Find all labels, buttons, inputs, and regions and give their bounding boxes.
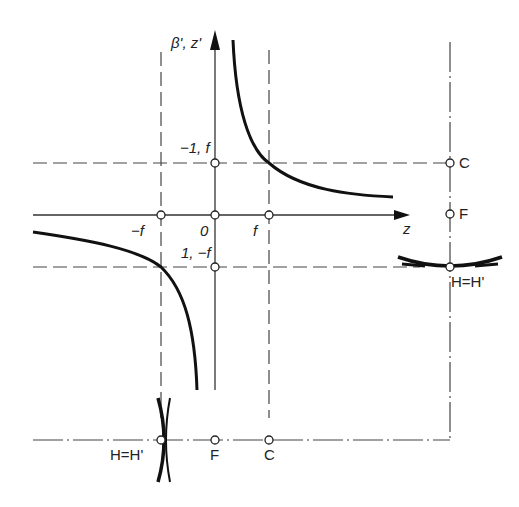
bottom-c-label: C <box>264 446 275 463</box>
right-c-label: C <box>459 154 470 171</box>
right-f-label: F <box>459 205 468 222</box>
label-upper: −1, f <box>180 139 211 156</box>
point-right-c <box>446 159 454 167</box>
point-upper-axis <box>211 159 219 167</box>
y-axis-label: β', z' <box>170 34 202 51</box>
point-bottom-f <box>211 436 219 444</box>
label-lower: 1, −f <box>181 244 212 261</box>
point-bottom-vertex <box>157 436 165 444</box>
bottom-f-label: F <box>210 446 219 463</box>
y-axis-arrow-icon <box>210 30 220 50</box>
point-pos-f <box>265 211 273 219</box>
point-bottom-c <box>265 436 273 444</box>
curve-lower-branch <box>33 232 197 390</box>
point-lower-axis <box>211 263 219 271</box>
label-origin: 0 <box>200 222 209 239</box>
point-neg-f <box>157 211 165 219</box>
point-origin <box>211 211 219 219</box>
x-axis-label: z <box>402 220 411 237</box>
label-pos-f: f <box>253 222 259 239</box>
curve-upper-branch <box>233 40 393 197</box>
optics-diagram: β', z' z −1, f 0 −f f 1, −f C F H=H' H=H… <box>0 0 519 507</box>
bottom-vertex-label: H=H' <box>110 446 143 463</box>
point-right-f <box>446 210 454 218</box>
label-neg-f: −f <box>131 222 146 239</box>
point-right-vertex <box>446 263 454 271</box>
x-axis-arrow-icon <box>394 210 410 220</box>
right-vertex-label: H=H' <box>451 273 484 290</box>
